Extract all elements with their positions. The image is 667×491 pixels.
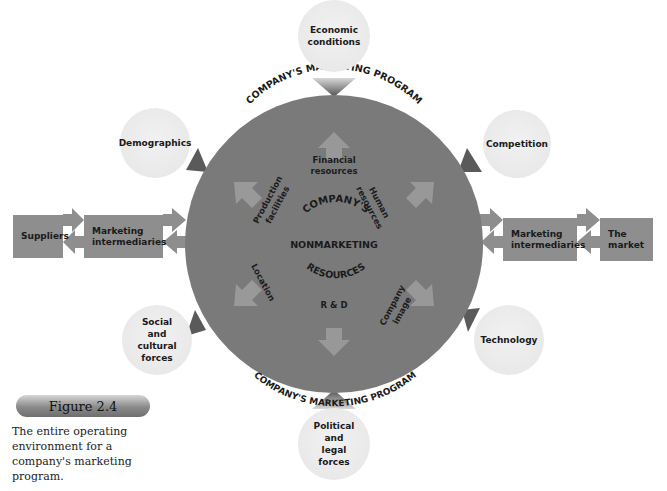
- force-economic: Economic conditions: [298, 0, 370, 72]
- force-political: Political and legal forces: [298, 408, 370, 480]
- force-demographics: Demographics: [120, 108, 190, 178]
- box-suppliers: Suppliers: [13, 215, 63, 258]
- center-title-line2: NONMARKETING: [290, 239, 378, 250]
- force-technology: Technology: [474, 305, 544, 375]
- figure-number-badge: Figure 2.4: [16, 395, 150, 417]
- resource-financial: Financial resources: [305, 155, 363, 177]
- box-marketing-intermediaries-right: Marketing intermediaries: [503, 218, 577, 261]
- force-competition: Competition: [483, 110, 551, 178]
- figure-caption: The entire operating environment for a c…: [12, 424, 152, 484]
- force-social: Social and cultural forces: [122, 305, 192, 375]
- box-the-market: The market: [600, 218, 653, 261]
- resource-rnd: R & D: [318, 300, 350, 311]
- box-marketing-intermediaries-left: Marketing intermediaries: [84, 215, 163, 258]
